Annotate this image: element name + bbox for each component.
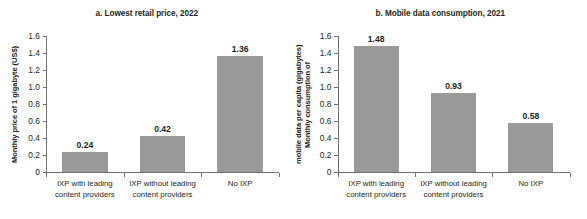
bar-value-label: 0.58: [522, 111, 539, 121]
chart-panel-b: b. Mobile data consumption, 2021 Monthly…: [294, 0, 587, 219]
category-label-line: IXP without leading: [129, 179, 196, 190]
y-tick-mark: [334, 70, 338, 71]
bar: [354, 46, 399, 172]
panel-a-y-axis-title: Monthly price of 1 gigabyte (US$): [10, 46, 20, 163]
y-tick-mark: [43, 87, 47, 88]
y-tick-label: 0: [35, 167, 40, 177]
x-category-label: IXP with leadingcontent providers: [346, 179, 406, 200]
y-tick-mark: [43, 121, 47, 122]
y-tick-mark: [334, 53, 338, 54]
y-tick-mark: [43, 70, 47, 71]
x-tick-mark: [338, 173, 339, 177]
panel-a-title: a. Lowest retail price, 2022: [0, 9, 294, 18]
y-tick-mark: [334, 121, 338, 122]
x-tick-mark: [124, 173, 125, 177]
bar: [508, 123, 553, 172]
bar-value-label: 0.24: [76, 140, 93, 150]
category-label-line: IXP with leading: [346, 179, 406, 190]
panel-b-title: b. Mobile data consumption, 2021: [294, 9, 587, 18]
y-tick-mark: [334, 138, 338, 139]
x-category-label: No IXP: [228, 179, 253, 190]
y-tick-mark: [334, 36, 338, 37]
panel-a-plot-area: 00.20.40.60.81.01.21.41.60.240.421.36: [46, 36, 279, 173]
category-label-line: content providers: [129, 190, 196, 201]
category-label-line: No IXP: [228, 179, 253, 190]
x-category-label: IXP with leadingcontent providers: [55, 179, 115, 200]
category-label-line: content providers: [346, 190, 406, 201]
y-tick-label: 1.2: [28, 65, 40, 75]
category-label-line: content providers: [420, 190, 487, 201]
panel-b-y-axis-title-line1: Monthly consumption of: [303, 62, 313, 148]
y-tick-label: 0.8: [320, 99, 332, 109]
y-tick-label: 1.6: [28, 31, 40, 41]
y-tick-label: 1.2: [320, 65, 332, 75]
x-tick-mark: [46, 173, 47, 177]
y-tick-label: 0: [327, 167, 332, 177]
y-tick-label: 0.4: [28, 133, 40, 143]
bar-value-label: 0.93: [445, 81, 462, 91]
y-tick-label: 0.6: [28, 116, 40, 126]
y-tick-label: 0.6: [320, 116, 332, 126]
bar-value-label: 0.42: [154, 124, 171, 134]
y-tick-mark: [334, 155, 338, 156]
bar: [62, 152, 107, 172]
y-tick-mark: [43, 53, 47, 54]
y-tick-label: 0.8: [28, 99, 40, 109]
category-label-line: IXP with leading: [55, 179, 115, 190]
y-tick-label: 0.2: [320, 150, 332, 160]
bar: [217, 56, 262, 172]
x-tick-mark: [279, 173, 280, 177]
x-category-label: IXP without leadingcontent providers: [420, 179, 487, 200]
bar-value-label: 1.48: [368, 34, 385, 44]
y-tick-mark: [43, 155, 47, 156]
y-tick-label: 1.0: [28, 82, 40, 92]
y-tick-label: 1.4: [28, 48, 40, 58]
bar: [431, 93, 476, 172]
chart-panel-a: a. Lowest retail price, 2022 Monthly pri…: [0, 0, 294, 219]
figure-two-panel-bar-charts: a. Lowest retail price, 2022 Monthly pri…: [0, 0, 587, 219]
y-tick-mark: [43, 36, 47, 37]
category-label-line: IXP without leading: [420, 179, 487, 190]
bar-value-label: 1.36: [232, 44, 249, 54]
x-tick-mark: [492, 173, 493, 177]
x-tick-mark: [415, 173, 416, 177]
x-category-label: No IXP: [518, 179, 543, 190]
x-category-label: IXP without leadingcontent providers: [129, 179, 196, 200]
y-tick-mark: [334, 87, 338, 88]
panel-b-plot-area: 00.20.40.60.81.01.21.41.61.480.930.58: [338, 36, 570, 173]
y-tick-mark: [43, 104, 47, 105]
bar: [140, 136, 185, 172]
x-tick-mark: [201, 173, 202, 177]
category-label-line: No IXP: [518, 179, 543, 190]
y-tick-label: 0.4: [320, 133, 332, 143]
y-tick-label: 1.6: [320, 31, 332, 41]
y-tick-mark: [334, 104, 338, 105]
category-label-line: content providers: [55, 190, 115, 201]
panel-b-y-axis-title-line2: mobile data per capita (gigabytes): [294, 45, 304, 164]
y-tick-label: 0.2: [28, 150, 40, 160]
y-tick-mark: [43, 138, 47, 139]
y-tick-label: 1.4: [320, 48, 332, 58]
x-tick-mark: [570, 173, 571, 177]
y-tick-label: 1.0: [320, 82, 332, 92]
